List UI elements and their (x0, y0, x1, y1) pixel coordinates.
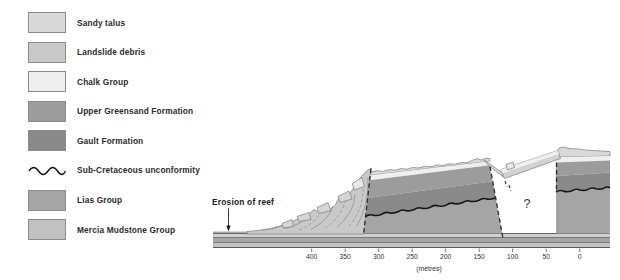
slab-foot-dash (509, 185, 511, 191)
tilted-chalk-slab (501, 151, 561, 192)
axis-tick-label: 100 (507, 253, 519, 260)
slab-foot-dash (505, 181, 507, 187)
main-cliff-block (364, 158, 504, 233)
geological-cross-section-figure: Sandy talus Landslide debris Chalk Group… (0, 0, 620, 280)
east-cliff-lias-layer (556, 188, 610, 234)
axis-unit-label: (metres) (416, 265, 441, 273)
axis-tick-label: 200 (440, 253, 452, 260)
axis-tick-label: 350 (340, 253, 352, 260)
distance-scale-axis: 400 350 300 250 200 150 100 50 0 (metres… (306, 249, 582, 273)
cross-section-drawing: Erosion of reef ? 400 350 300 250 200 15… (0, 0, 620, 280)
erosion-of-reef-annotation: Erosion of reef (212, 197, 274, 232)
axis-tick-label: 150 (474, 253, 486, 260)
question-mark-label: ? (524, 197, 531, 211)
erosion-of-reef-label: Erosion of reef (212, 197, 274, 207)
erosion-arrow-head (226, 226, 230, 232)
east-cliff-sandy-talus-cap (556, 147, 610, 157)
shore-platform-beds (213, 233, 610, 248)
axis-tick-label: 50 (542, 253, 550, 260)
east-cliff-block (556, 147, 610, 234)
axis-tick-label: 300 (373, 253, 385, 260)
axis-tick-label: 0 (578, 253, 582, 260)
axis-tick-label: 400 (306, 253, 318, 260)
axis-tick-label: 250 (407, 253, 419, 260)
